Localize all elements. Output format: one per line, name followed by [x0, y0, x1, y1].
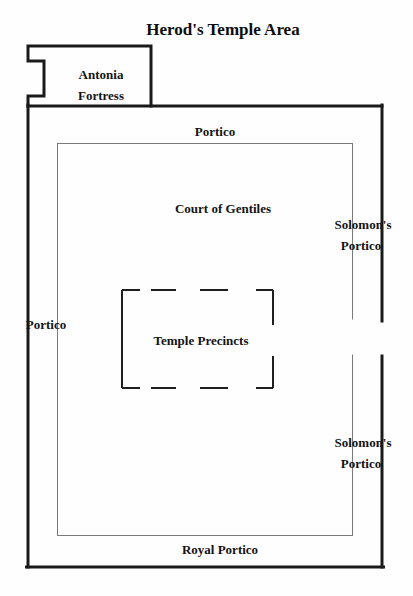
- portico-west-label: Portico: [26, 317, 66, 332]
- diagram-canvas: [0, 0, 413, 596]
- diagram-title: Herod's Temple Area: [146, 20, 299, 40]
- herods-temple-diagram: Herod's Temple Area Antonia Fortress Por…: [0, 0, 413, 596]
- solomons-portico-upper-label-line2: Portico: [341, 238, 381, 253]
- antonia-fortress-label-line1: Antonia: [79, 67, 124, 82]
- solomons-portico-upper-label-line1: Solomon's: [334, 217, 391, 232]
- portico-north-label: Portico: [195, 124, 235, 139]
- solomons-portico-lower-label-line2: Portico: [341, 456, 381, 471]
- antonia-fortress-label-line2: Fortress: [78, 88, 124, 103]
- court-of-gentiles-label: Court of Gentiles: [175, 201, 271, 216]
- temple-precincts-label: Temple Precincts: [154, 333, 249, 348]
- solomons-portico-lower-label-line1: Solomon's: [334, 435, 391, 450]
- royal-portico-label: Royal Portico: [182, 542, 258, 557]
